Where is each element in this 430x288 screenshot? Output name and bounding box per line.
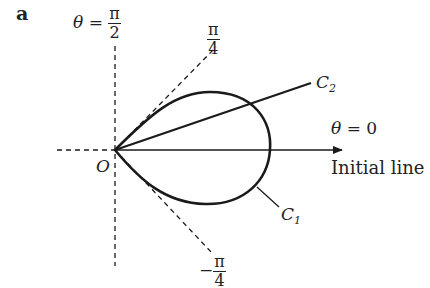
part-label: a <box>16 2 28 24</box>
pi-over-4-label: π4 <box>207 22 220 57</box>
curve-c2-label: C2 <box>316 72 336 95</box>
initial-line-label: Initial line <box>331 157 424 178</box>
curve-c1-label: C1 <box>281 204 301 227</box>
curve-c1 <box>115 92 270 204</box>
c1-leader-line <box>257 187 279 207</box>
theta-half-pi-label: θ = π2 <box>73 6 121 41</box>
theta-zero-label: θ = 0 <box>331 118 377 138</box>
neg-pi-over-4-label: −π4 <box>199 254 226 288</box>
origin-label: O <box>96 156 110 176</box>
